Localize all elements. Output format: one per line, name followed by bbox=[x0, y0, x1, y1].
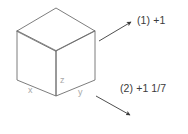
figure-canvas: z x y (1) +1 (2) +1 1/7 bbox=[0, 0, 188, 134]
axis-label-y: y bbox=[78, 87, 83, 97]
cube-right-face-edge bbox=[56, 31, 95, 96]
cube-axis-labels: z x y bbox=[28, 75, 83, 97]
callout-arrows bbox=[96, 22, 131, 115]
axis-label-z: z bbox=[60, 75, 65, 85]
cube-wireframe bbox=[17, 8, 95, 96]
cube-top-face-edge bbox=[17, 8, 95, 51]
callout-arrow-1 bbox=[99, 22, 131, 41]
callout-arrow-2 bbox=[96, 96, 130, 115]
cube-left-face-edge bbox=[17, 31, 56, 96]
callout-label-1: (1) +1 bbox=[137, 14, 165, 26]
axis-label-x: x bbox=[28, 85, 33, 95]
callout-label-2: (2) +1 1/7 bbox=[120, 82, 166, 94]
